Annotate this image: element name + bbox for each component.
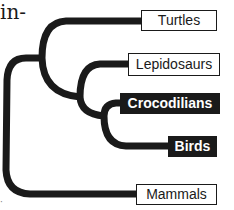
taxon-label-mammals: Mammals [136,184,217,205]
taxon-label-crocodilians: Crocodilians [120,93,220,114]
branch-node-b-down [80,97,104,116]
branch-birds [104,116,172,146]
taxon-label-birds: Birds [168,136,217,157]
taxon-label-lepidosaurs: Lepidosaurs [128,53,220,76]
taxon-label-turtles: Turtles [141,10,217,31]
branch-node-a-down [42,58,80,97]
branch-root [6,58,140,194]
